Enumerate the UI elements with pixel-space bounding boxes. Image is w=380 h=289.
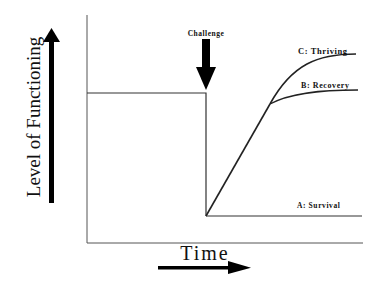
x-axis-label: Time: [180, 242, 230, 264]
curve-rise-line: [206, 104, 270, 216]
time-arrow-head: [228, 261, 251, 274]
baseline-functioning-line: [87, 93, 206, 216]
label-b-recovery: B: Recovery: [301, 81, 350, 90]
curve-b-recovery: [270, 90, 358, 104]
challenge-arrow-shaft: [202, 39, 210, 69]
y-axis-label: Level of Functioning: [23, 36, 44, 197]
curve-c-thriving: [270, 54, 356, 104]
time-arrow-shaft: [158, 266, 234, 270]
y-axis-arrow-head: [43, 28, 60, 42]
y-axis-arrow-shaft: [49, 40, 54, 203]
resilience-diagram: Challenge C: Thriving B: Recovery A: Sur…: [0, 0, 380, 289]
challenge-arrow-head: [196, 67, 216, 90]
event-label-challenge: Challenge: [188, 29, 225, 38]
label-c-thriving: C: Thriving: [298, 46, 348, 56]
label-a-survival: A: Survival: [297, 201, 340, 210]
